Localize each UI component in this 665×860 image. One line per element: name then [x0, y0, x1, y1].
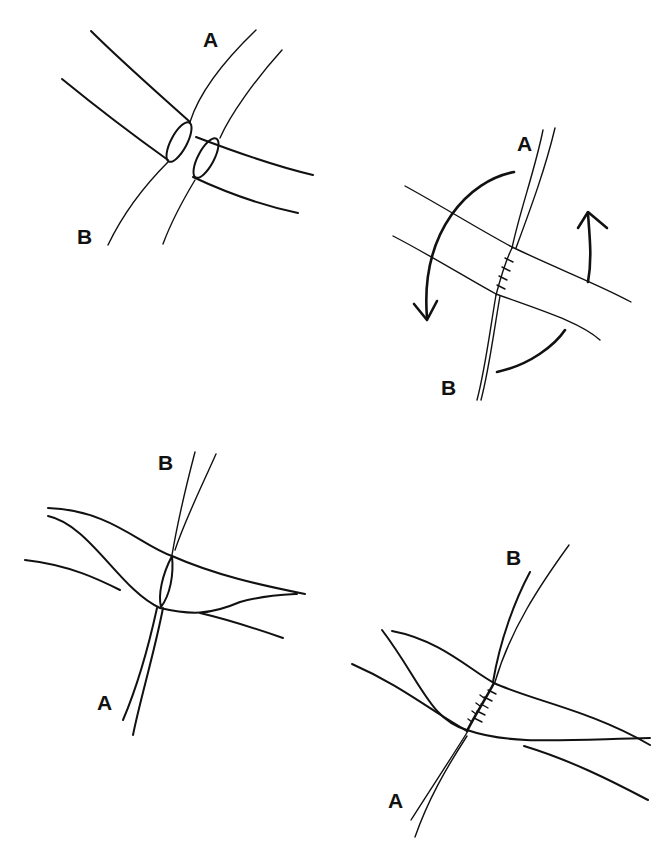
panel-2: A B — [393, 128, 631, 400]
label-b-panel-3: B — [158, 451, 173, 474]
panel-3: B A — [25, 451, 305, 735]
label-b-panel-2: B — [441, 376, 456, 399]
label-b-panel-4: B — [506, 546, 521, 569]
anastomosis-illustration: A B A B — [0, 0, 665, 860]
label-a-panel-2: A — [517, 132, 532, 155]
panel-4: B A — [352, 545, 650, 837]
rotate-arrow-right — [588, 214, 590, 282]
label-a-panel-1: A — [203, 28, 218, 51]
label-a-panel-3: A — [97, 691, 112, 714]
label-b-panel-1: B — [77, 225, 92, 248]
label-a-panel-4: A — [388, 789, 403, 812]
panel-1: A B — [62, 28, 313, 248]
rotate-arrow-bottom — [497, 330, 565, 372]
